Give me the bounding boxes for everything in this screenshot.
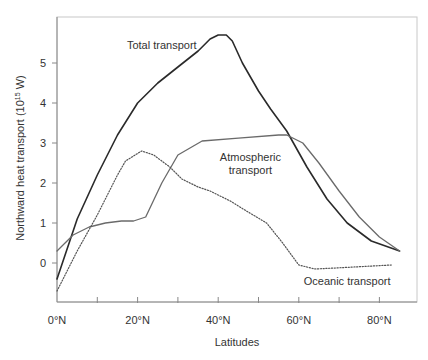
atmospheric-transport-label: Atmospheric [220, 151, 282, 163]
y-axis-title: Northward heat transport (1015 W) [14, 75, 26, 241]
x-axis-title: Latitudes [215, 336, 260, 348]
x-tick-label: 80°N [367, 314, 392, 326]
x-tick-label: 0°N [48, 314, 67, 326]
y-axis: 012345 [40, 57, 57, 269]
x-tick-label: 40°N [206, 314, 231, 326]
y-tick-label: 2 [40, 177, 46, 189]
x-tick-label: 20°N [125, 314, 150, 326]
x-tick-label: 60°N [287, 314, 312, 326]
series-lines [57, 35, 400, 291]
y-tick-label: 5 [40, 57, 46, 69]
x-axis: 0°N20°N40°N60°N80°N [48, 297, 392, 326]
heat-transport-chart: 0°N20°N40°N60°N80°N 012345 Total transpo… [0, 0, 428, 360]
total-transport-label: Total transport [127, 39, 197, 51]
oceanic-transport-label: Oceanic transport [304, 275, 391, 287]
atmospheric-transport-label: transport [229, 164, 272, 176]
y-tick-label: 1 [40, 217, 46, 229]
oceanic-transport-line [57, 151, 392, 291]
y-tick-label: 0 [40, 257, 46, 269]
y-tick-label: 3 [40, 137, 46, 149]
y-tick-label: 4 [40, 97, 46, 109]
